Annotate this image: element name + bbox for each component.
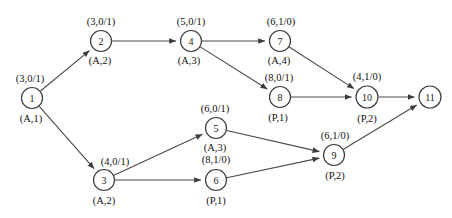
node-1-label-above: (3,0/1) [16,73,45,85]
node-6-label-above: (8,1/0) [202,154,231,166]
node-4-label-above: (5,0/1) [177,16,206,28]
node-id-2: 2 [99,36,104,47]
edge-3-to-5 [114,134,202,175]
node-2-label-below: (A,2) [89,55,112,67]
node-7-label-above: (6,1/0) [267,16,296,28]
node-2-label-above: (3,0/1) [87,16,116,28]
node-id-11: 11 [425,92,435,103]
network-diagram: 1234567891011 (3,0/1)(A,1)(3,0/1)(A,2)(4… [0,0,452,218]
node-8[interactable]: 8 [270,87,291,108]
node-9[interactable]: 9 [324,145,345,166]
node-id-7: 7 [278,36,283,47]
node-11[interactable]: 11 [419,86,441,108]
node-2[interactable]: 2 [91,31,112,52]
node-7[interactable]: 7 [270,31,291,52]
node-id-9: 9 [332,150,337,161]
node-id-6: 6 [214,175,219,186]
edge-4-to-8 [200,47,267,89]
edge-6-to-9 [227,158,320,178]
node-id-1: 1 [30,93,35,104]
node-3-label-above: (4,0/1) [101,156,130,168]
node-7-label-below: (A,4) [268,55,291,67]
node-id-8: 8 [278,92,283,103]
node-9-label-above: (6,1/0) [321,130,350,142]
node-4[interactable]: 4 [181,31,202,52]
edge-1-to-3 [39,106,94,168]
node-1-label-below: (A,1) [20,113,43,125]
node-3-label-below: (A,2) [93,195,116,207]
node-9-label-below: (P,2) [325,170,345,182]
node-5-label-below: (A,3) [204,142,227,154]
node-6[interactable]: 6 [206,170,227,191]
node-4-label-below: (A,3) [178,55,201,67]
node-8-label-below: (P,1) [268,112,288,124]
node-id-5: 5 [214,123,219,134]
node-id-10: 10 [362,92,372,103]
node-1[interactable]: 1 [22,88,43,109]
node-8-label-above: (8,0/1) [265,72,294,84]
edge-1-to-2 [40,51,89,91]
node-10-label-below: (P,2) [357,113,377,125]
node-5[interactable]: 5 [206,118,227,139]
network-canvas: 1234567891011 (3,0/1)(A,1)(3,0/1)(A,2)(4… [0,0,452,218]
node-id-3: 3 [102,175,107,186]
edge-5-to-9 [227,130,320,151]
node-10[interactable]: 10 [356,86,378,108]
node-10-label-above: (4,1/0) [353,71,382,83]
edge-7-to-10 [289,47,354,89]
node-6-label-below: (P,1) [206,195,226,207]
node-3[interactable]: 3 [94,170,115,191]
node-id-4: 4 [189,36,194,47]
node-5-label-above: (6,0/1) [201,103,230,115]
edge-9-to-11 [343,105,416,149]
